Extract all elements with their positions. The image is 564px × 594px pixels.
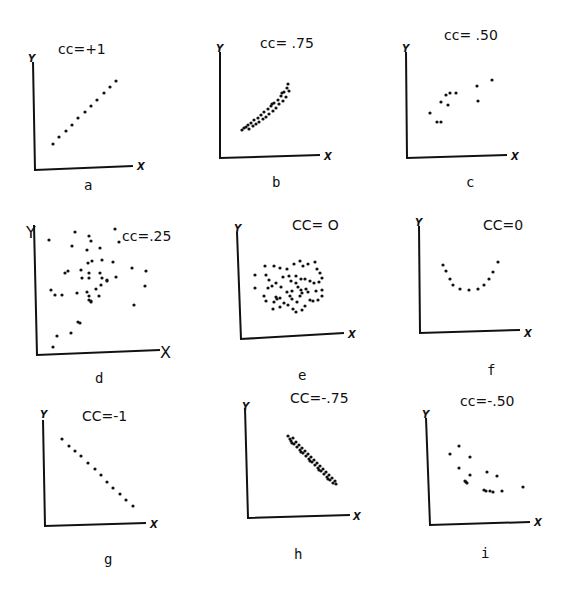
panel-label: e	[298, 367, 306, 383]
data-point	[333, 479, 336, 482]
data-point	[282, 301, 285, 304]
data-point	[446, 103, 449, 106]
axes	[406, 52, 507, 158]
data-point	[484, 489, 487, 492]
data-point	[303, 449, 306, 452]
data-points	[441, 260, 499, 291]
data-point	[491, 490, 494, 493]
data-point	[457, 444, 460, 447]
data-point	[266, 286, 269, 289]
panel-label: a	[84, 177, 92, 193]
data-point	[111, 486, 114, 489]
data-point	[281, 99, 284, 102]
data-point	[99, 473, 102, 476]
data-point	[102, 91, 105, 94]
data-point	[261, 117, 264, 120]
data-point	[66, 269, 69, 272]
y-axis-label: Y	[242, 401, 251, 412]
scatter-panel-g: CC=-1YXg	[40, 408, 159, 567]
data-point	[308, 279, 311, 282]
panel-label: i	[481, 545, 489, 561]
data-point	[70, 123, 73, 126]
data-point	[53, 293, 56, 296]
data-point	[312, 458, 315, 461]
data-point	[105, 278, 108, 281]
data-point	[317, 468, 320, 471]
data-point	[144, 269, 147, 272]
data-point	[288, 294, 291, 297]
data-point	[290, 441, 293, 444]
data-point	[448, 277, 451, 280]
data-point	[69, 331, 72, 334]
data-point	[98, 271, 101, 274]
data-point	[468, 455, 471, 458]
data-point	[275, 297, 278, 300]
data-point	[251, 124, 254, 127]
data-point	[272, 264, 275, 267]
data-point	[291, 436, 294, 439]
axes	[419, 226, 520, 333]
scatter-panel-d: cc=.25YXd	[25, 223, 171, 386]
data-point	[278, 266, 281, 269]
data-point	[496, 260, 499, 263]
data-point	[90, 259, 93, 262]
data-point	[262, 110, 265, 113]
data-point	[249, 121, 252, 124]
data-point	[286, 82, 289, 85]
data-point	[321, 467, 324, 470]
data-point	[57, 135, 60, 138]
data-point	[49, 288, 52, 291]
data-points	[60, 437, 134, 507]
axes	[43, 420, 146, 526]
data-point	[299, 450, 302, 453]
data-point	[94, 287, 97, 290]
data-point	[290, 289, 293, 292]
data-point	[124, 498, 127, 501]
data-point	[266, 107, 269, 110]
data-point	[100, 276, 103, 279]
panel-title: CC= O	[292, 217, 339, 233]
data-point	[286, 434, 289, 437]
data-points	[47, 227, 147, 348]
data-point	[274, 281, 277, 284]
scatter-panel-e: CC= OYXe	[234, 217, 357, 383]
data-point	[51, 345, 54, 348]
data-point	[299, 277, 302, 280]
data-point	[308, 298, 311, 301]
data-point	[267, 278, 270, 281]
data-point	[60, 437, 63, 440]
data-point	[482, 283, 485, 286]
data-point	[320, 294, 323, 297]
data-point	[444, 93, 447, 96]
data-point	[75, 291, 78, 294]
y-axis-label: Y	[422, 409, 431, 420]
data-point	[257, 120, 260, 123]
x-axis-label: X	[136, 161, 146, 172]
data-point	[87, 294, 90, 297]
data-point	[51, 142, 54, 145]
data-point	[100, 258, 103, 261]
data-point	[87, 276, 90, 279]
panel-label: f	[487, 362, 495, 378]
data-point	[315, 461, 318, 464]
y-axis-label: Y	[402, 43, 411, 54]
data-point	[279, 94, 282, 97]
scatter-panel-i: cc=-.50YXi	[422, 393, 543, 561]
data-point	[263, 264, 266, 267]
data-point	[117, 240, 120, 243]
data-point	[86, 261, 89, 264]
data-point	[259, 113, 262, 116]
data-point	[93, 467, 96, 470]
data-point	[278, 305, 281, 308]
panel-title: cc=-.50	[460, 393, 514, 409]
data-point	[95, 98, 98, 101]
data-points	[448, 444, 524, 493]
panel-title: CC=-1	[82, 408, 127, 424]
data-point	[495, 474, 498, 477]
data-point	[490, 78, 493, 81]
panel-label: h	[294, 546, 302, 562]
data-point	[306, 262, 309, 265]
data-point	[312, 281, 315, 284]
data-point	[294, 440, 297, 443]
data-point	[287, 274, 290, 277]
